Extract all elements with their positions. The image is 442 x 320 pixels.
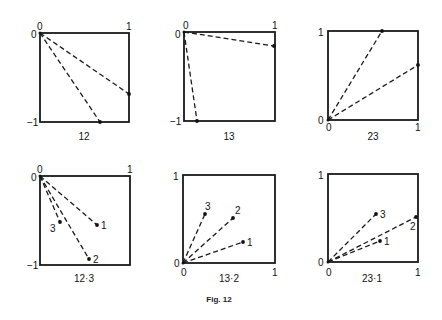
axis-label: 1 xyxy=(318,27,324,38)
panel-13-2: 123100113·2 xyxy=(173,171,278,284)
panel-caption: 23·1 xyxy=(362,273,382,284)
axis-label: 0 xyxy=(181,267,187,278)
vector-endpoint xyxy=(203,212,207,216)
vector-line xyxy=(328,65,418,120)
point-label: 1 xyxy=(384,236,390,247)
vector-line xyxy=(183,214,205,263)
panel-frame xyxy=(328,31,418,120)
vector-line xyxy=(328,214,376,262)
axis-label: −1 xyxy=(170,116,182,127)
axis-label: 0 xyxy=(174,258,180,269)
vector-line xyxy=(40,33,129,94)
vector-endpoint xyxy=(98,120,102,124)
panel-23-1: 123100123·1 xyxy=(318,170,421,284)
vector-endpoint xyxy=(374,212,378,216)
vector-line xyxy=(40,176,60,222)
axis-label: 0 xyxy=(37,164,43,175)
panel-caption: 23 xyxy=(367,131,379,142)
point-label: 1 xyxy=(247,237,253,248)
vector-endpoint xyxy=(380,29,384,33)
axis-label: 1 xyxy=(173,171,179,182)
axis-label: 1 xyxy=(415,122,421,133)
panel-caption: 12·3 xyxy=(74,273,94,284)
axis-label: 0 xyxy=(175,29,181,40)
vector-endpoint xyxy=(231,216,235,220)
point-label: 1 xyxy=(101,220,107,231)
panel-12: 001−112 xyxy=(27,21,132,142)
vector-line xyxy=(328,31,382,120)
axis-label: 0 xyxy=(318,257,324,268)
axis-label: 0 xyxy=(37,21,43,32)
point-label: 3 xyxy=(380,209,386,220)
axis-label: 1 xyxy=(126,21,132,32)
vector-endpoint xyxy=(414,215,418,219)
axis-label: 0 xyxy=(183,20,189,31)
axis-label: 1 xyxy=(272,20,278,31)
origin-dot xyxy=(182,262,185,265)
vector-line xyxy=(328,241,380,262)
axis-label: 1 xyxy=(127,164,133,175)
point-label: 2 xyxy=(93,254,99,265)
panel-13: 001−113 xyxy=(170,20,278,142)
vector-line xyxy=(40,176,89,259)
vector-endpoint xyxy=(195,119,199,123)
point-label: 3 xyxy=(50,223,56,234)
axis-label: 1 xyxy=(272,267,278,278)
axis-label: 0 xyxy=(318,115,324,126)
vector-endpoint xyxy=(272,44,276,48)
axis-label: 0 xyxy=(326,122,332,133)
origin-dot xyxy=(327,261,330,264)
vector-line xyxy=(40,176,97,225)
panel-caption: 13·2 xyxy=(219,273,239,284)
panel-23: 100123 xyxy=(318,27,421,142)
panel-caption: 13 xyxy=(223,131,235,142)
figure-12-diagram: 001−112001−113100123123001−112·312310011… xyxy=(0,0,442,320)
vector-endpoint xyxy=(378,239,382,243)
vector-line xyxy=(328,217,416,262)
vector-line xyxy=(183,242,243,263)
axis-label: 1 xyxy=(415,267,421,278)
vector-endpoint xyxy=(241,240,245,244)
panel-frame xyxy=(184,32,275,121)
vector-endpoint xyxy=(87,257,91,261)
vector-line xyxy=(184,32,197,121)
vector-endpoint xyxy=(58,220,62,224)
vector-endpoint xyxy=(416,63,420,67)
vector-endpoint xyxy=(95,223,99,227)
point-label: 3 xyxy=(205,201,211,212)
axis-label: −1 xyxy=(27,117,39,128)
vector-line xyxy=(40,33,100,122)
axis-label: 0 xyxy=(326,267,332,278)
vector-line xyxy=(184,32,274,46)
panel-12-3: 123001−112·3 xyxy=(27,164,133,284)
vector-line xyxy=(183,218,233,263)
point-label: 2 xyxy=(410,221,416,232)
panel-caption: 12 xyxy=(78,131,90,142)
axis-label: 1 xyxy=(318,170,324,181)
vector-endpoint xyxy=(127,92,131,96)
figure-caption: Fig. 12 xyxy=(206,295,232,304)
panel-frame xyxy=(40,33,129,122)
axis-label: −1 xyxy=(27,260,39,271)
panel-grid: 001−112001−113100123123001−112·312310011… xyxy=(27,20,421,284)
point-label: 2 xyxy=(235,205,241,216)
